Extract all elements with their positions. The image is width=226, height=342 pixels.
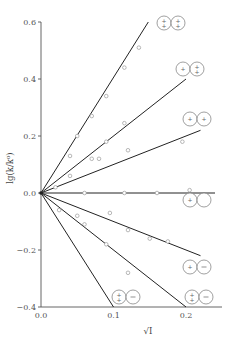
- data-point: [104, 140, 108, 144]
- data-point: [188, 188, 192, 192]
- y-tick-label: −0.4: [17, 303, 36, 312]
- y-tick-label: 0.2: [23, 132, 36, 141]
- data-point: [75, 134, 79, 138]
- x-tick-label: 0.0: [35, 311, 48, 320]
- series-line: [41, 193, 201, 256]
- plus-sign: +: [201, 115, 206, 122]
- data-point: [104, 94, 108, 98]
- plus-sign: +: [175, 22, 180, 29]
- plus-sign: +: [187, 263, 192, 270]
- data-point: [97, 157, 101, 161]
- data-point: [75, 214, 79, 218]
- data-point: [137, 46, 141, 50]
- data-point: [123, 66, 127, 70]
- salt-effect-chart: +++++++++++++++ 0.60.40.20.0−0.2−0.40.00…: [0, 0, 226, 342]
- data-point: [57, 208, 61, 212]
- tick-labels: 0.60.40.20.0−0.2−0.40.00.10.2√Ilg(k/k⁰): [5, 18, 192, 336]
- plus-sign: +: [189, 296, 194, 303]
- data-point: [54, 186, 58, 190]
- plus-sign: +: [180, 65, 185, 72]
- data-point: [148, 237, 152, 241]
- plus-sign: +: [187, 196, 192, 203]
- plus-sign: +: [194, 68, 199, 75]
- y-tick-label: −0.2: [17, 246, 36, 255]
- data-point: [155, 191, 159, 195]
- data-point: [108, 211, 112, 215]
- data-point: [83, 223, 87, 227]
- data-point: [104, 243, 108, 247]
- plus-sign: +: [161, 22, 166, 29]
- plus-sign: +: [116, 296, 121, 303]
- y-tick-label: 0.4: [23, 75, 36, 84]
- data-point: [90, 114, 94, 118]
- origin-point: [39, 191, 43, 195]
- series-line: [41, 130, 201, 193]
- series-line: [41, 193, 114, 307]
- data-point: [90, 157, 94, 161]
- data-point: [126, 271, 130, 275]
- series-line: [41, 22, 148, 193]
- x-axis-title: √I: [144, 326, 153, 336]
- data-point: [68, 174, 72, 178]
- data-point: [123, 191, 127, 195]
- x-tick-label: 0.2: [180, 311, 193, 320]
- y-axis-title: lg(k/k⁰): [5, 152, 15, 183]
- data-point: [166, 240, 170, 244]
- data-point: [123, 121, 127, 125]
- x-tick-label: 0.1: [107, 311, 120, 320]
- ion-b-icon: [197, 193, 211, 207]
- data-point: [126, 148, 130, 152]
- y-tick-label: 0.0: [23, 189, 36, 198]
- data-point: [126, 228, 130, 232]
- series-line: [41, 79, 186, 193]
- data-point: [181, 140, 185, 144]
- plus-sign: +: [187, 115, 192, 122]
- data-point: [83, 191, 87, 195]
- data-point: [68, 154, 72, 158]
- series-line: [41, 193, 186, 307]
- y-tick-label: 0.6: [23, 18, 36, 27]
